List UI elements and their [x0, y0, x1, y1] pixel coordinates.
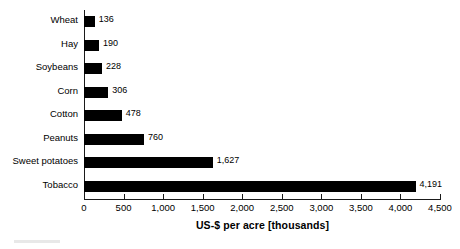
bar-row: 136	[84, 10, 440, 33]
category-label-row: Wheat	[0, 10, 78, 33]
bar-value-label: 136	[99, 14, 114, 25]
bar-value-label: 228	[106, 61, 121, 72]
x-axis-tick-label: 0	[81, 202, 86, 214]
x-axis-tick	[124, 194, 125, 199]
bar-value-label: 478	[126, 108, 141, 119]
x-axis-tick-label: 2,500	[270, 202, 294, 214]
bar	[84, 157, 213, 168]
category-label: Peanuts	[0, 131, 78, 144]
x-axis-title: US-$ per acre [thousands]	[84, 219, 441, 231]
category-label: Tobacco	[0, 178, 78, 191]
bar-value-label: 306	[112, 85, 127, 96]
bar	[84, 134, 144, 145]
x-axis-tick-label: 500	[116, 202, 132, 214]
category-label-row: Peanuts	[0, 128, 78, 151]
x-axis-tick	[400, 194, 401, 199]
bar-value-label: 190	[103, 38, 118, 49]
bar-row: 228	[84, 57, 440, 80]
x-axis-tick-label: 3,500	[349, 202, 373, 214]
category-label-row: Cotton	[0, 104, 78, 127]
value-axis-line	[84, 199, 441, 200]
bar	[84, 181, 416, 192]
category-label: Wheat	[0, 13, 78, 26]
bar-row: 1,627	[84, 151, 440, 174]
x-axis-tick-label: 3,000	[309, 202, 333, 214]
x-axis-tick-label: 4,500	[428, 202, 452, 214]
bar-row: 478	[84, 104, 440, 127]
bar-row: 306	[84, 81, 440, 104]
category-label: Cotton	[0, 107, 78, 120]
x-axis-tick	[361, 194, 362, 199]
bar-value-label: 4,191	[420, 179, 443, 190]
bar	[84, 16, 95, 27]
category-label: Sweet potatoes	[0, 154, 78, 167]
bar-row: 190	[84, 34, 440, 57]
category-label-row: Soybeans	[0, 57, 78, 80]
bar-value-label: 1,627	[217, 155, 240, 166]
x-axis-tick	[163, 194, 164, 199]
bar-row: 4,191	[84, 175, 440, 198]
x-axis-tick-label: 1,000	[151, 202, 175, 214]
caption-edge-artifact	[14, 240, 60, 243]
x-axis-tick-label: 1,500	[191, 202, 215, 214]
x-axis-tick	[84, 194, 85, 199]
category-label: Hay	[0, 37, 78, 50]
bar	[84, 63, 102, 74]
x-axis-tick	[242, 194, 243, 199]
x-axis-tick-label: 2,000	[230, 202, 254, 214]
category-label-row: Tobacco	[0, 175, 78, 198]
bar-row: 760	[84, 128, 440, 151]
category-label: Corn	[0, 84, 78, 97]
bar	[84, 87, 108, 98]
bar-value-label: 760	[148, 132, 163, 143]
category-label: Soybeans	[0, 60, 78, 73]
bar	[84, 110, 122, 121]
x-axis-tick	[282, 194, 283, 199]
x-axis-tick	[321, 194, 322, 199]
plot-area: 1361902283064787601,6274,191 WheatHaySoy…	[0, 0, 460, 249]
x-axis-tick-label: 4,000	[389, 202, 413, 214]
category-label-row: Corn	[0, 81, 78, 104]
category-label-row: Hay	[0, 34, 78, 57]
x-axis-tick	[203, 194, 204, 199]
bar	[84, 40, 99, 51]
category-label-row: Sweet potatoes	[0, 151, 78, 174]
x-axis-tick	[440, 194, 441, 199]
bar-chart: 1361902283064787601,6274,191 WheatHaySoy…	[0, 0, 460, 249]
